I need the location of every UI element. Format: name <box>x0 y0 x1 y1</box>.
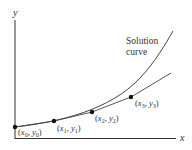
y-axis-label: y <box>12 7 18 18</box>
solution-curve-label-line2: curve <box>126 47 147 57</box>
point-2-label: (x2, y2) <box>95 113 119 124</box>
solution-curve-label-line1: Solution <box>126 36 158 46</box>
point-0-marker <box>13 125 17 129</box>
point-3-label: (x3, y3) <box>135 98 159 109</box>
point-1-label: (x1, y1) <box>57 123 81 134</box>
point-1-marker <box>52 119 56 123</box>
point-3-marker <box>129 95 133 99</box>
x-axis-label: x <box>179 132 185 143</box>
euler-method-diagram: y x (x0, y0) (x1, y1) (x2, y2) (x3, y3) … <box>0 0 192 150</box>
point-0-label: (x0, y0) <box>18 127 42 138</box>
point-2-marker <box>90 110 94 114</box>
